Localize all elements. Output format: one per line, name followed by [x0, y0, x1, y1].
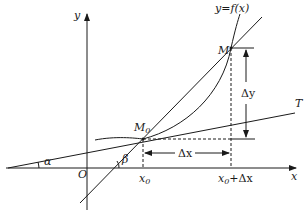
x0-plus-dx-label: x0+Δx — [218, 172, 253, 186]
y-axis-label: y — [73, 9, 81, 22]
point-M0 — [142, 138, 145, 141]
alpha-label: α — [44, 155, 52, 168]
m0-sub: 0 — [145, 126, 150, 135]
x0-label: x0 — [139, 172, 150, 186]
delta-y-label: Δy — [241, 87, 256, 100]
point-M0-label: M0 — [133, 121, 150, 135]
x0-sub: 0 — [145, 177, 150, 186]
beta-label: β — [121, 153, 128, 166]
curve-label: y=f(x) — [214, 2, 249, 15]
x-axis-label: x — [291, 170, 298, 183]
tangent-T-label: T — [295, 97, 304, 110]
curve-f — [95, 14, 240, 140]
point-M — [230, 47, 233, 50]
delta-x-label: Δx — [178, 147, 193, 160]
m0-main: M — [133, 121, 146, 134]
origin-label: O — [78, 168, 87, 181]
x0dx-plus: +Δx — [229, 172, 253, 185]
derivative-diagram: y x O y=f(x) M M0 T Δy Δx x0 x0+Δx α β — [0, 0, 305, 220]
point-M-label: M — [217, 44, 230, 57]
alpha-arc — [38, 162, 39, 168]
